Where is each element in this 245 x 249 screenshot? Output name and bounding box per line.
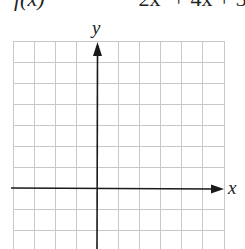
y-axis-arrow-icon: [93, 42, 102, 56]
grid-lines: [13, 41, 225, 249]
x-axis-arrow-icon: [211, 185, 224, 194]
x-axis-label: x: [227, 177, 237, 198]
x-axis: [11, 185, 224, 194]
y-axis: [93, 42, 102, 249]
coordinate-grid: x y: [0, 0, 245, 249]
y-axis-label: y: [90, 17, 101, 38]
